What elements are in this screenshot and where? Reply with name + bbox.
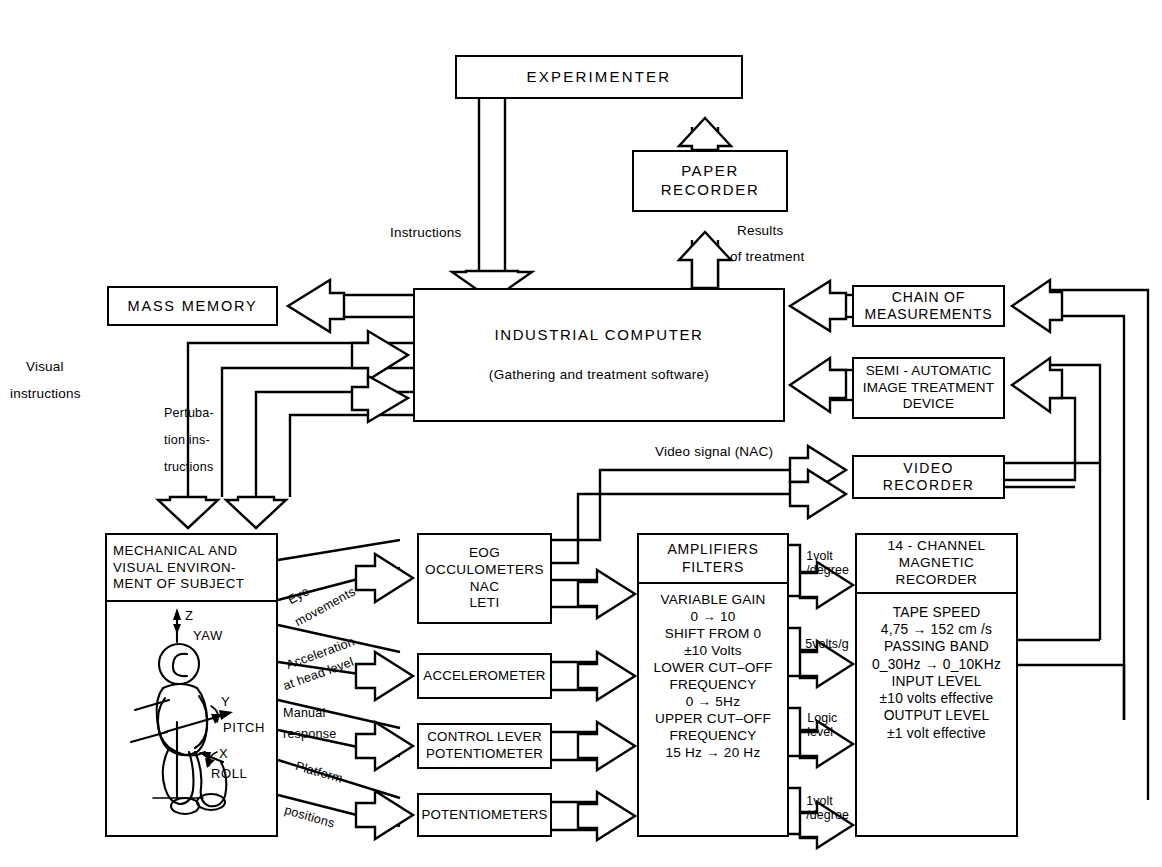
amplifiers-spec: 15 Hz → 20 Hz [639, 745, 787, 762]
magrec-spec: 0_30Hz → 0_10KHz [857, 656, 1016, 673]
arrowhead-paper-bottom [679, 232, 731, 288]
magrec-spec: 4,75 → 152 cm /s [857, 621, 1016, 638]
wire-computer-to-subject-d [290, 415, 413, 497]
label-instructions: Instructions [390, 224, 461, 242]
amplifiers-spec: LOWER CUT–OFF [639, 660, 787, 677]
label-manual-line1: Manual [283, 705, 326, 721]
arrowhead-chain-right [1012, 280, 1062, 332]
magrec-header1: 14 - CHANNEL [859, 538, 1014, 555]
arrowhead-amp-in-4 [578, 792, 635, 840]
industrial-computer-title: INDUSTRIAL COMPUTER [494, 326, 703, 345]
magrec-spec: ±1 volt effective [857, 725, 1016, 742]
signal-level-2-line1: 5volts/g [805, 637, 849, 651]
box-paper-recorder[interactable]: PAPER RECORDER [632, 150, 788, 212]
box-potentiometers[interactable]: POTENTIOMETERS [417, 793, 552, 837]
signal-level-3: Logic level [793, 696, 837, 755]
wire-feedback-rail-semi-b [1005, 398, 1075, 480]
diagram-canvas: EXPERIMENTER PAPER RECORDER INDUSTRIAL C… [0, 0, 1162, 867]
label-video-signal: Video signal (NAC) [655, 443, 773, 461]
axis-label-yaw: YAW [193, 628, 223, 643]
arrowhead-amp-in-3 [578, 722, 635, 770]
control-lever-line2: POTENTIOMETER [426, 746, 543, 763]
subject-line1: MECHANICAL AND [113, 543, 272, 560]
label-visual-instructions-line1: Visual [26, 358, 64, 376]
box-eog-occulometers[interactable]: EOG OCCULOMETERS NAC LETI [417, 533, 552, 624]
subject-line3: MENT OF SUBJECT [113, 576, 272, 593]
amplifiers-spec: FREQUENCY [639, 728, 787, 745]
amplifiers-spec-list: VARIABLE GAIN 0 → 10 SHIFT FROM 0 ±10 Vo… [639, 584, 787, 762]
axis-label-roll: ROLL [211, 766, 247, 781]
box-amplifiers-filters[interactable]: AMPLIFIERS FILTERS VARIABLE GAIN 0 → 10 … [637, 533, 789, 837]
box-video-recorder[interactable]: VIDEO RECORDER [852, 455, 1005, 499]
arrowhead-computer-right-semi [790, 358, 846, 412]
industrial-computer-subtitle: (Gathering and treatment software) [489, 367, 709, 384]
eog-line2: OCCULOMETERS [425, 562, 544, 579]
arrowhead-subject-visual [158, 497, 218, 528]
signal-level-2: 5volts/g [791, 622, 849, 666]
amplifiers-spec: VARIABLE GAIN [639, 592, 787, 609]
arrowhead-amp-in-1 [578, 570, 635, 618]
axis-label-z: Z [185, 608, 194, 623]
label-manual-line2: response [283, 726, 336, 742]
magrec-spec: ±10 volts effective [857, 690, 1016, 707]
magrec-header: 14 - CHANNEL MAGNETIC RECORDER [857, 535, 1016, 594]
amplifiers-spec: ±10 Volts [639, 643, 787, 660]
label-pertubation-line3: tructions [164, 459, 213, 475]
wire-eog-to-video-a [552, 470, 820, 540]
box-semi-automatic-image-treatment-device[interactable]: SEMI - AUTOMATIC IMAGE TREATMENT DEVICE [852, 357, 1005, 419]
wire-feedback-rail-semi-a [1043, 365, 1100, 640]
box-14-channel-magnetic-recorder[interactable]: 14 - CHANNEL MAGNETIC RECORDER TAPE SPEE… [855, 533, 1018, 837]
box-mechanical-visual-environment-of-subject[interactable]: MECHANICAL AND VISUAL ENVIRON- MENT OF S… [105, 533, 278, 837]
arrowhead-subject-perturbation [226, 497, 286, 528]
accelerometer-label: ACCELEROMETER [423, 668, 545, 685]
signal-level-4-line2: /degree [806, 808, 849, 822]
arrowhead-computer-right-chain [790, 281, 846, 331]
label-results-line1: Results [737, 222, 783, 240]
chain-line1: CHAIN OF [892, 289, 965, 307]
semi-auto-line3: DEVICE [903, 396, 954, 413]
signal-level-1-line2: /degree [806, 563, 849, 577]
wire-magrec-out-b [1018, 665, 1124, 720]
signal-level-4-line1: 1volt [806, 794, 833, 808]
signal-level-1: 1volt /degree [792, 534, 849, 593]
eog-line4: LETI [469, 595, 499, 612]
signal-level-4: 1volt /degree [792, 779, 849, 838]
label-results-line2: of treatment [730, 248, 804, 266]
potentiometers-label: POTENTIOMETERS [421, 807, 547, 824]
experimenter-label: EXPERIMENTER [527, 68, 672, 87]
box-industrial-computer[interactable]: INDUSTRIAL COMPUTER (Gathering and treat… [413, 288, 785, 422]
subject-line2: VISUAL ENVIRON- [113, 560, 272, 577]
signal-level-1-line1: 1volt [806, 549, 833, 563]
box-accelerometer[interactable]: ACCELEROMETER [417, 653, 552, 699]
magrec-spec: OUTPUT LEVEL [857, 707, 1016, 724]
arrowhead-computer-left-a [352, 331, 408, 380]
chain-line2: MEASUREMENTS [865, 306, 993, 324]
eog-line1: EOG [469, 545, 500, 562]
magrec-spec: PASSING BAND [857, 638, 1016, 655]
axis-label-y: Y [221, 694, 230, 709]
paper-recorder-line1: PAPER [681, 162, 739, 181]
magrec-header2: MAGNETIC [859, 555, 1014, 572]
semi-auto-line2: IMAGE TREATMENT [863, 380, 995, 397]
paper-recorder-line2: RECORDER [661, 181, 760, 200]
signal-level-3-line2: level [807, 725, 833, 739]
arrowhead-accel-in [356, 652, 413, 700]
subject-figure-panel: Z YAW Y PITCH X ROLL [107, 602, 276, 822]
video-recorder-line2: RECORDER [883, 477, 974, 495]
amplifiers-spec: 0 → 5Hz [639, 694, 787, 711]
box-mass-memory[interactable]: MASS MEMORY [107, 286, 278, 326]
arrowhead-mass-memory [288, 280, 344, 332]
box-control-lever-potentiometer[interactable]: CONTROL LEVER POTENTIOMETER [417, 723, 552, 769]
mass-memory-label: MASS MEMORY [128, 297, 258, 315]
box-chain-of-measurements[interactable]: CHAIN OF MEASUREMENTS [852, 285, 1005, 327]
amplifiers-spec: UPPER CUT–OFF [639, 711, 787, 728]
label-pertubation-line2: tion ins- [164, 432, 210, 448]
label-pertubation-line1: Pertuba- [164, 405, 214, 421]
magrec-spec: INPUT LEVEL [857, 673, 1016, 690]
arrowhead-lever-in [356, 722, 413, 770]
subject-header: MECHANICAL AND VISUAL ENVIRON- MENT OF S… [107, 535, 276, 602]
eog-line3: NAC [470, 579, 500, 596]
axis-label-pitch: PITCH [223, 720, 265, 735]
amplifiers-header1: AMPLIFIERS [641, 541, 785, 559]
box-experimenter[interactable]: EXPERIMENTER [455, 55, 743, 99]
